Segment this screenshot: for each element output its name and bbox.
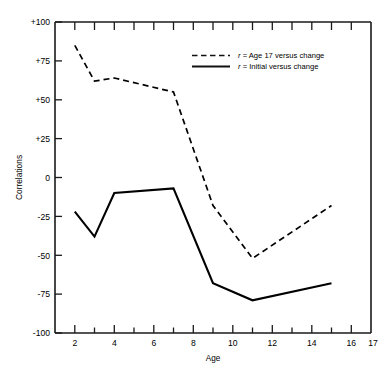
x-tick-labels: 2 4 6 8 10 12 14 16 17: [72, 338, 378, 348]
chart-svg: +100 +75 +50 +25 0 -25 -50 -75 -100: [0, 0, 390, 383]
x-tick-label: 12: [268, 338, 278, 348]
legend-label-age17: r = Age 17 versus change: [238, 51, 324, 60]
y-axis-title: Correlations: [14, 155, 24, 200]
x-axis-title: Age: [206, 354, 221, 363]
legend-text-initial: = Initial versus change: [241, 62, 319, 71]
y-tick-label: +75: [35, 56, 50, 66]
y-tick-label: -50: [38, 251, 51, 261]
y-tick-label: +50: [35, 95, 50, 105]
y-tick-label: 0: [45, 173, 50, 183]
x-tick-label: 4: [112, 338, 117, 348]
chart-legend: r = Age 17 versus change r = Initial ver…: [192, 51, 324, 71]
x-tick-label: 10: [228, 338, 238, 348]
legend-label-initial: r = Initial versus change: [238, 62, 318, 71]
x-tick-label: 14: [307, 338, 317, 348]
y-axis-ticks: [55, 22, 62, 333]
series-line-initial: [75, 188, 332, 300]
x-tick-label: 17: [368, 338, 378, 348]
x-tick-label: 6: [151, 338, 156, 348]
plot-frame: [55, 22, 371, 333]
x-axis-ticks-top: [75, 22, 352, 30]
y-tick-label: -100: [33, 328, 50, 338]
x-tick-label: 8: [191, 338, 196, 348]
y-tick-label: +100: [31, 17, 51, 27]
y-tick-label: +25: [35, 134, 50, 144]
x-tick-label: 2: [72, 338, 77, 348]
x-axis-ticks-bottom: [75, 325, 352, 333]
chart-figure: +100 +75 +50 +25 0 -25 -50 -75 -100: [0, 0, 390, 383]
y-tick-label: -75: [38, 289, 51, 299]
y-tick-labels: +100 +75 +50 +25 0 -25 -50 -75 -100: [31, 17, 51, 338]
y-tick-label: -25: [38, 212, 51, 222]
series-line-age17: [75, 45, 332, 258]
x-tick-label: 16: [347, 338, 357, 348]
legend-text-age17: = Age 17 versus change: [241, 51, 325, 60]
